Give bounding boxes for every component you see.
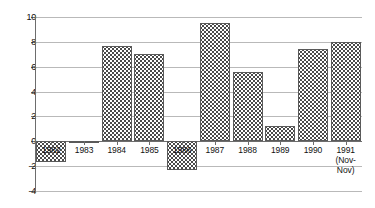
x-tick-label: 1990 (297, 145, 330, 155)
x-tick-label-year: 1986 (173, 145, 192, 155)
bar (233, 72, 263, 142)
y-tick-label: -2 (6, 162, 36, 171)
x-tick-label: 1991(Nov-Nov) (329, 145, 362, 175)
x-tick-label-year: 1989 (271, 145, 290, 155)
x-tick-label: 1983 (68, 145, 101, 155)
y-tick-label: 10 (6, 13, 36, 22)
bar (265, 126, 295, 141)
bar (298, 49, 328, 141)
x-tick-label-annotation: (Nov- (329, 155, 362, 165)
bar-group: 1984 (100, 0, 133, 208)
x-tick-label: 1989 (264, 145, 297, 155)
y-tick-label: 8 (6, 38, 36, 47)
bar (134, 54, 164, 141)
x-tick-label-year: 1983 (75, 145, 94, 155)
x-tick-label-year: 1984 (107, 145, 126, 155)
bar (331, 42, 361, 141)
bars-layer: 1982198319841985198619871988198919901991… (35, 0, 362, 208)
bar (200, 23, 230, 141)
bar-group: 1991(Nov-Nov) (329, 0, 362, 208)
bar (102, 46, 132, 142)
x-tick-label: 1985 (133, 145, 166, 155)
bar-group: 1987 (199, 0, 232, 208)
x-tick-label-year: 1988 (238, 145, 257, 155)
x-tick-label-annotation: Nov) (329, 165, 362, 175)
x-tick-label-year: 1987 (206, 145, 225, 155)
bar-group: 1982 (35, 0, 68, 208)
y-tick-label: 2 (6, 112, 36, 121)
bar-group: 1990 (297, 0, 330, 208)
x-tick-label: 1986 (166, 145, 199, 155)
x-tick-label-year: 1991 (336, 145, 355, 155)
bar-chart: 1086420-2-4 1982198319841985198619871988… (0, 0, 375, 208)
x-tick-label-year: 1985 (140, 145, 159, 155)
x-tick-label: 1982 (35, 145, 68, 155)
y-tick-label: 6 (6, 63, 36, 72)
y-tick-label: 4 (6, 88, 36, 97)
bar-group: 1989 (264, 0, 297, 208)
x-tick-label: 1988 (231, 145, 264, 155)
bar-group: 1985 (133, 0, 166, 208)
x-tick-label: 1987 (199, 145, 232, 155)
x-tick-label: 1984 (100, 145, 133, 155)
x-tick-label-year: 1982 (42, 145, 61, 155)
y-tick-label: 0 (6, 137, 36, 146)
bar-group: 1986 (166, 0, 199, 208)
bar-group: 1983 (68, 0, 101, 208)
x-tick-label-year: 1990 (304, 145, 323, 155)
bar-group: 1988 (231, 0, 264, 208)
y-tick-label: -4 (6, 187, 36, 196)
